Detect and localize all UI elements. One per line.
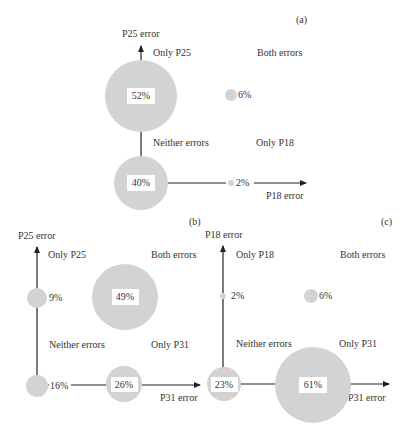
panel-c-bubble-only-x-value: 61%: [304, 379, 322, 390]
panel-a-bubble-neither-value: 40%: [132, 177, 150, 188]
panel-a-quadrant-bottom-right: Only P18: [256, 137, 294, 148]
panel-b-bubble-only-y-value: 9%: [49, 292, 62, 303]
panel-b-quadrant-top-right: Both errors: [151, 249, 196, 260]
panel-a-y-axis-label: P25 error: [122, 28, 160, 39]
panel-c-x-axis-label: P31 error: [348, 392, 386, 403]
panel-b-bubble-neither-value: 16%: [50, 380, 68, 391]
panel-a-bubble-only-y-value: 52%: [132, 90, 150, 101]
panel-c-bubble-only-y-value: 2%: [231, 290, 244, 301]
panel-a: (a) P25 error P18 error Only P25 Both er…: [105, 14, 307, 210]
panel-c-bubble-both-value: 6%: [319, 290, 332, 301]
panel-a-quadrant-top-left: Only P25: [153, 47, 191, 58]
panel-b-bubble-only-y: [27, 288, 47, 308]
panel-c: (c) P18 error P31 error Only P18 Both er…: [205, 216, 392, 423]
panel-a-bubble-both-value: 6%: [238, 89, 251, 100]
panel-b-bubble-only-x-value: 26%: [115, 379, 133, 390]
panel-b: (b) P25 error P31 error Only P25 Both er…: [18, 216, 201, 403]
panel-b-bubble-neither: [26, 375, 48, 397]
panel-b-label: (b): [189, 216, 201, 228]
panel-c-quadrant-top-right: Both errors: [340, 249, 385, 260]
panel-b-y-axis-label: P25 error: [18, 230, 56, 241]
panel-c-label: (c): [381, 216, 392, 228]
panel-a-bubble-only-x: [228, 180, 234, 186]
panel-b-x-axis-label: P31 error: [160, 392, 198, 403]
panel-c-y-axis-label: P18 error: [205, 229, 243, 240]
panel-c-bubble-only-y: [220, 293, 226, 299]
panel-c-quadrant-bottom-left: Neither errors: [236, 338, 292, 349]
panel-a-label: (a): [296, 14, 307, 26]
panel-a-x-axis-label: P18 error: [266, 190, 304, 201]
panel-c-bubble-both: [304, 289, 318, 303]
panel-c-bubble-neither-value: 23%: [215, 379, 233, 390]
panel-b-bubble-both-value: 49%: [116, 291, 134, 302]
panel-b-quadrant-bottom-right: Only P31: [151, 339, 189, 350]
panel-b-quadrant-top-left: Only P25: [48, 249, 86, 260]
panel-b-quadrant-bottom-left: Neither errors: [49, 339, 105, 350]
panel-c-quadrant-top-left: Only P18: [236, 249, 274, 260]
panel-a-quadrant-bottom-left: Neither errors: [153, 137, 209, 148]
panel-c-quadrant-bottom-right: Only P31: [339, 338, 377, 349]
panel-a-bubble-both: [225, 89, 237, 101]
panel-a-bubble-only-x-value: 2%: [236, 177, 249, 188]
error-overlap-bubble-diagram: (a) P25 error P18 error Only P25 Both er…: [0, 0, 409, 439]
panel-a-quadrant-top-right: Both errors: [257, 47, 302, 58]
